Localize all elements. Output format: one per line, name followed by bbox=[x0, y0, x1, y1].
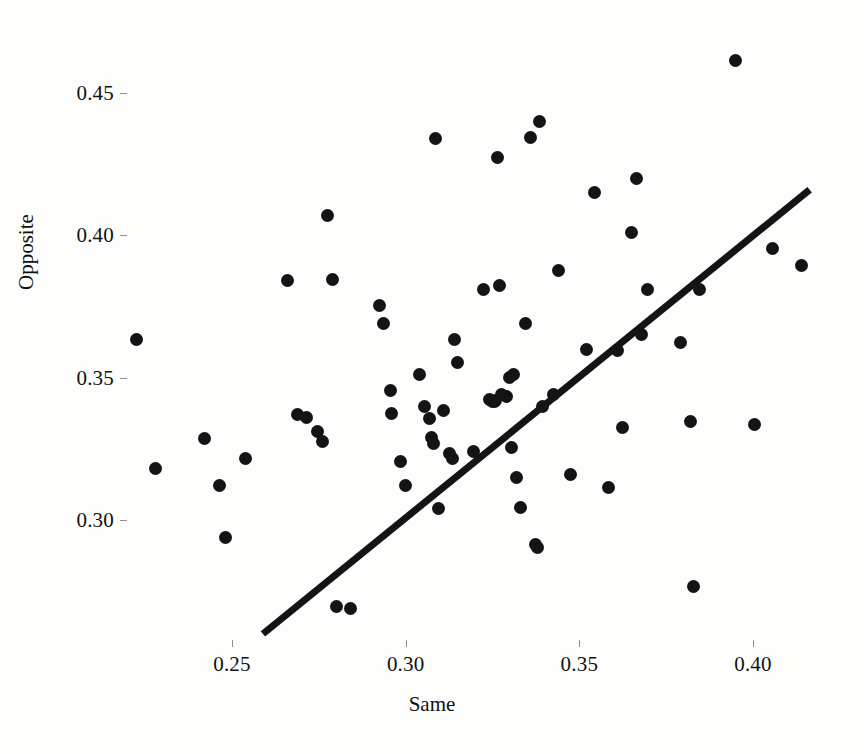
x-tick-label: 0.30 bbox=[387, 652, 425, 677]
data-point bbox=[684, 415, 697, 428]
y-tick-label: 0.35 bbox=[58, 365, 114, 390]
data-point bbox=[564, 468, 577, 481]
data-point bbox=[625, 226, 638, 239]
data-point bbox=[467, 445, 480, 458]
data-point bbox=[795, 259, 808, 272]
data-point bbox=[514, 501, 527, 514]
data-point bbox=[507, 368, 520, 381]
x-tick-mark bbox=[232, 640, 233, 647]
data-point bbox=[729, 54, 742, 67]
data-point bbox=[519, 317, 532, 330]
data-point bbox=[693, 283, 706, 296]
y-tick-mark bbox=[120, 378, 127, 379]
data-point bbox=[394, 455, 407, 468]
data-point bbox=[384, 384, 397, 397]
data-point bbox=[373, 299, 386, 312]
y-tick-mark bbox=[120, 93, 127, 94]
data-point bbox=[377, 317, 390, 330]
data-point bbox=[531, 541, 544, 554]
data-point bbox=[300, 411, 313, 424]
data-point bbox=[130, 333, 143, 346]
data-point bbox=[580, 343, 593, 356]
data-point bbox=[427, 437, 440, 450]
x-tick-label: 0.25 bbox=[213, 652, 251, 677]
data-point bbox=[423, 412, 436, 425]
data-point bbox=[588, 186, 601, 199]
data-point bbox=[198, 432, 211, 445]
data-point bbox=[413, 368, 426, 381]
x-tick-mark bbox=[406, 640, 407, 647]
plot-area bbox=[0, 0, 864, 754]
x-axis-label: Same bbox=[0, 692, 864, 717]
data-point bbox=[429, 132, 442, 145]
data-point bbox=[418, 400, 431, 413]
data-point bbox=[213, 479, 226, 492]
data-point bbox=[510, 471, 523, 484]
data-point bbox=[500, 390, 513, 403]
trend-line bbox=[0, 0, 864, 754]
data-point bbox=[437, 404, 450, 417]
data-point bbox=[326, 273, 339, 286]
data-point bbox=[451, 356, 464, 369]
data-point bbox=[687, 580, 700, 593]
y-axis-label: Opposite bbox=[14, 214, 39, 290]
data-point bbox=[491, 151, 504, 164]
data-point bbox=[321, 209, 334, 222]
data-point bbox=[385, 407, 398, 420]
data-point bbox=[641, 283, 654, 296]
data-point bbox=[536, 400, 549, 413]
data-point bbox=[635, 328, 648, 341]
data-point bbox=[533, 115, 546, 128]
data-point bbox=[602, 481, 615, 494]
y-tick-label: 0.40 bbox=[58, 223, 114, 248]
data-point bbox=[674, 336, 687, 349]
data-point bbox=[448, 333, 461, 346]
data-point bbox=[766, 242, 779, 255]
data-point bbox=[432, 502, 445, 515]
data-point bbox=[547, 388, 560, 401]
data-point bbox=[477, 283, 490, 296]
data-point bbox=[344, 602, 357, 615]
data-point bbox=[748, 418, 761, 431]
x-tick-mark bbox=[579, 640, 580, 647]
data-point bbox=[330, 600, 343, 613]
data-point bbox=[611, 344, 624, 357]
y-tick-label: 0.30 bbox=[58, 508, 114, 533]
data-point bbox=[552, 264, 565, 277]
data-point bbox=[219, 531, 232, 544]
x-tick-label: 0.35 bbox=[561, 652, 599, 677]
data-point bbox=[316, 435, 329, 448]
trend-line-segment bbox=[263, 190, 810, 634]
y-tick-label: 0.45 bbox=[58, 81, 114, 106]
x-tick-label: 0.40 bbox=[734, 652, 772, 677]
data-point bbox=[239, 452, 252, 465]
data-point bbox=[616, 421, 629, 434]
data-point bbox=[505, 441, 518, 454]
data-point bbox=[149, 462, 162, 475]
y-tick-mark bbox=[120, 520, 127, 521]
data-point bbox=[524, 131, 537, 144]
data-point bbox=[399, 479, 412, 492]
y-tick-mark bbox=[120, 235, 127, 236]
data-point bbox=[630, 172, 643, 185]
data-point bbox=[446, 452, 459, 465]
data-point bbox=[493, 279, 506, 292]
x-tick-mark bbox=[753, 640, 754, 647]
data-point bbox=[281, 274, 294, 287]
scatter-plot-figure: 0.250.300.350.40 0.300.350.400.45 Same O… bbox=[0, 0, 864, 754]
